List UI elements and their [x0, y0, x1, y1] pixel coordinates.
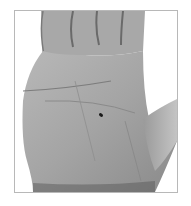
- photo-frame: [14, 10, 178, 193]
- palm-photo: [15, 11, 177, 192]
